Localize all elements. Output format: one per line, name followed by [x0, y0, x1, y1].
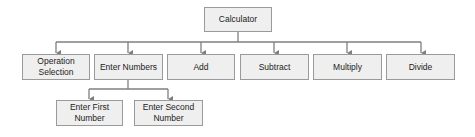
calculator-hierarchy-diagram: Calculator Operation Selection Enter Num… — [0, 0, 475, 137]
node-operation-selection: Operation Selection — [22, 54, 90, 80]
node-enter-first-number: Enter First Number — [56, 100, 123, 126]
node-divide: Divide — [386, 54, 455, 80]
node-add: Add — [167, 54, 235, 80]
node-enter-numbers: Enter Numbers — [94, 54, 163, 80]
node-multiply: Multiply — [313, 54, 382, 80]
node-calculator: Calculator — [204, 7, 272, 32]
node-subtract: Subtract — [240, 54, 309, 80]
node-enter-second-number: Enter Second Number — [134, 100, 203, 126]
